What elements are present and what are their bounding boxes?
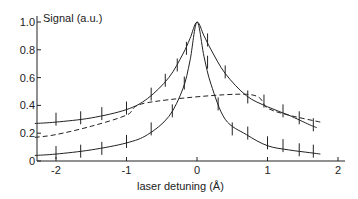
x-tick-label: 2 — [335, 164, 341, 176]
y-tick-label: 0 — [29, 155, 35, 167]
x-tick-label: -2 — [51, 164, 61, 176]
series-solid — [35, 22, 321, 155]
error-bars — [56, 33, 313, 159]
chart: 00.20.40.60.81.0 -2-1012 Signal (a.u.) l… — [0, 0, 358, 199]
x-tick-labels: -2-1012 — [51, 164, 341, 176]
x-tick-label: 0 — [194, 164, 200, 176]
y-tick-label: 0.6 — [20, 72, 35, 84]
y-tick-label: 0.2 — [20, 127, 35, 139]
axes — [37, 16, 345, 161]
y-axis-label: Signal (a.u.) — [43, 12, 102, 24]
y-tick-label: 0.4 — [20, 99, 35, 111]
y-tick-labels: 00.20.40.60.81.0 — [20, 16, 35, 167]
y-tick-label: 1.0 — [20, 16, 35, 28]
x-tick-label: -1 — [122, 164, 132, 176]
x-axis-label: laser detuning (Å) — [137, 180, 224, 192]
plot-curves — [35, 22, 321, 155]
x-tick-label: 1 — [264, 164, 270, 176]
series-solid — [35, 22, 317, 128]
y-tick-label: 0.8 — [20, 44, 35, 56]
